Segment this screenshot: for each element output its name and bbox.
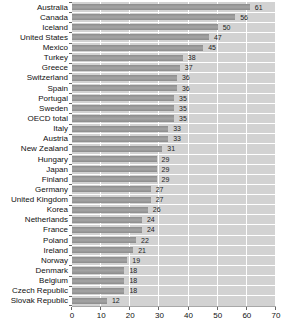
x-axis-tick <box>100 307 101 310</box>
category-label: Poland <box>0 235 68 245</box>
bar <box>72 247 133 253</box>
x-tick-label: 70 <box>261 311 284 320</box>
bar-row: 35 <box>72 93 276 103</box>
x-tick-label: 0 <box>57 311 87 320</box>
y-axis-tick <box>69 113 72 114</box>
y-axis-tick <box>69 154 72 155</box>
bar <box>72 14 235 20</box>
bar-series: 6156504745383736363535353333312929292727… <box>72 2 276 306</box>
category-label: Greece <box>0 63 68 73</box>
y-axis-tick <box>69 235 72 236</box>
y-axis-tick <box>69 195 72 196</box>
bar <box>72 288 124 294</box>
bar <box>72 75 177 81</box>
y-axis-tick <box>69 93 72 94</box>
category-label: Denmark <box>0 265 68 275</box>
y-axis-tick <box>69 174 72 175</box>
category-label: Korea <box>0 205 68 215</box>
category-label: Sweden <box>0 103 68 113</box>
x-axis-tick <box>217 307 218 310</box>
value-label: 35 <box>179 113 187 123</box>
bar <box>72 298 107 304</box>
bar <box>72 136 168 142</box>
value-label: 35 <box>179 103 187 113</box>
x-axis-tick <box>246 307 247 310</box>
y-axis-tick <box>69 53 72 54</box>
value-label: 12 <box>112 296 120 306</box>
category-label: Slovak Republic <box>0 296 68 306</box>
category-label: Mexico <box>0 43 68 53</box>
bar <box>72 105 174 111</box>
category-label: Czech Republic <box>0 286 68 296</box>
bar-row: 26 <box>72 205 276 215</box>
bar-row: 33 <box>72 124 276 134</box>
x-tick-label: 10 <box>86 311 116 320</box>
x-axis-tick <box>71 307 72 310</box>
bar <box>72 4 250 10</box>
category-label: Canada <box>0 12 68 22</box>
value-label: 29 <box>162 174 170 184</box>
bar-row: 29 <box>72 164 276 174</box>
bar <box>72 24 218 30</box>
y-axis-tick <box>69 245 72 246</box>
category-label: Austria <box>0 134 68 144</box>
y-axis-tick <box>69 83 72 84</box>
category-label: Iceland <box>0 22 68 32</box>
bar-row: 33 <box>72 134 276 144</box>
bar <box>72 126 168 132</box>
value-label: 24 <box>147 215 155 225</box>
y-axis-tick <box>69 103 72 104</box>
bar-row: 18 <box>72 265 276 275</box>
value-label: 61 <box>255 2 263 12</box>
bar <box>72 278 124 284</box>
y-axis-tick <box>69 164 72 165</box>
bar <box>72 65 180 71</box>
x-axis-tick <box>188 307 189 310</box>
x-tick-label: 50 <box>203 311 233 320</box>
bar <box>72 186 151 192</box>
category-label: OECD total <box>0 113 68 123</box>
category-label: New Zealand <box>0 144 68 154</box>
bar-row: 35 <box>72 113 276 123</box>
x-tick-label: 30 <box>144 311 174 320</box>
y-axis-tick <box>69 296 72 297</box>
y-axis-tick <box>69 305 72 306</box>
bar <box>72 34 209 40</box>
category-label: France <box>0 225 68 235</box>
category-label: Ireland <box>0 245 68 255</box>
value-label: 29 <box>162 154 170 164</box>
x-axis-tick <box>129 307 130 310</box>
value-label: 29 <box>162 164 170 174</box>
value-label: 35 <box>179 93 187 103</box>
bar-row: 12 <box>72 296 276 306</box>
bar <box>72 207 148 213</box>
category-label: United States <box>0 32 68 42</box>
value-label: 56 <box>240 12 248 22</box>
bar-row: 29 <box>72 174 276 184</box>
y-axis-tick <box>69 2 72 3</box>
bar <box>72 166 157 172</box>
bar-row: 36 <box>72 73 276 83</box>
bar <box>72 95 174 101</box>
bar-row: 61 <box>72 2 276 12</box>
y-axis-tick <box>69 134 72 135</box>
bar <box>72 85 177 91</box>
bar <box>72 257 127 263</box>
value-label: 21 <box>138 245 146 255</box>
value-label: 36 <box>182 73 190 83</box>
bar <box>72 55 183 61</box>
y-axis-tick <box>69 184 72 185</box>
bar <box>72 146 162 152</box>
bar-row: 22 <box>72 235 276 245</box>
category-label: Portugal <box>0 93 68 103</box>
bar <box>72 267 124 273</box>
value-label: 47 <box>214 32 222 42</box>
y-axis-tick <box>69 32 72 33</box>
value-label: 36 <box>182 83 190 93</box>
x-axis-tick <box>158 307 159 310</box>
y-axis-tick <box>69 144 72 145</box>
y-axis-tick <box>69 276 72 277</box>
value-label: 18 <box>129 265 137 275</box>
bar-row: 24 <box>72 215 276 225</box>
bar <box>72 115 174 121</box>
